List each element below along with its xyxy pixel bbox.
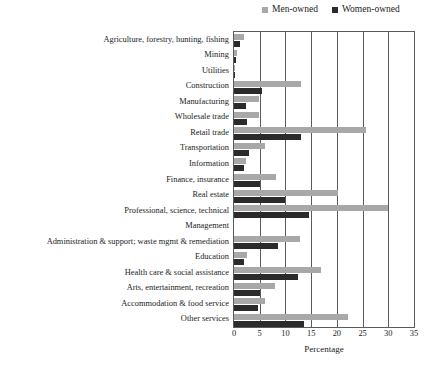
- bar-men-owned: [234, 283, 275, 289]
- bar-men-owned: [234, 267, 321, 273]
- bar-row: [234, 142, 414, 158]
- category-label: Arts, entertainment, recreation: [127, 284, 229, 292]
- category-label: Mining: [204, 51, 229, 59]
- bar-row: [234, 80, 414, 96]
- bar-men-owned: [234, 252, 247, 258]
- legend-entry-women-owned: Women-owned: [332, 5, 400, 15]
- bar-women-owned: [234, 41, 240, 47]
- category-label: Wholesale trade: [175, 113, 229, 121]
- bar-row: [234, 297, 414, 313]
- chart-container: Men-owned Women-owned Agriculture, fores…: [0, 0, 436, 370]
- plot-area: [233, 31, 415, 328]
- bar-row: [234, 219, 414, 235]
- x-tick-label-15: 15: [307, 330, 315, 338]
- bar-men-owned: [234, 81, 301, 87]
- category-axis-labels: Agriculture, forestry, hunting, fishingM…: [0, 31, 229, 328]
- bar-women-owned: [234, 259, 244, 265]
- bar-row: [234, 235, 414, 251]
- category-label: Health care & social assistance: [125, 269, 229, 277]
- category-label: Manufacturing: [179, 98, 229, 106]
- category-label: Administration & support; waste mgmt & r…: [47, 238, 229, 246]
- legend-label-women-owned: Women-owned: [342, 5, 400, 15]
- bar-men-owned: [234, 236, 300, 242]
- bar-men-owned: [234, 127, 366, 133]
- category-label: Retail trade: [190, 129, 229, 137]
- bar-women-owned: [234, 274, 298, 280]
- bar-men-owned: [234, 205, 388, 211]
- bar-women-owned: [234, 197, 285, 203]
- x-tick-label-35: 35: [410, 330, 418, 338]
- bar-women-owned: [234, 150, 249, 156]
- bar-men-owned: [234, 96, 259, 102]
- bar-row: [234, 204, 414, 220]
- x-axis-title: Percentage: [233, 345, 415, 354]
- bar-women-owned: [234, 212, 309, 218]
- bar-men-owned: [234, 298, 265, 304]
- bar-row: [234, 250, 414, 266]
- bar-row: [234, 312, 414, 328]
- x-tick-label-0: 0: [232, 330, 236, 338]
- bar-women-owned: [234, 321, 304, 327]
- bar-row: [234, 49, 414, 65]
- bar-rows: [234, 32, 414, 327]
- bar-men-owned: [234, 65, 235, 71]
- category-label: Agriculture, forestry, hunting, fishing: [103, 36, 229, 44]
- category-label: Accommodation & food service: [121, 300, 229, 308]
- bar-row: [234, 126, 414, 142]
- bar-women-owned: [234, 119, 247, 125]
- bar-row: [234, 173, 414, 189]
- category-label: Other services: [181, 315, 229, 323]
- bar-women-owned: [234, 243, 278, 249]
- legend-label-men-owned: Men-owned: [272, 5, 318, 15]
- bar-row: [234, 157, 414, 173]
- bar-row: [234, 111, 414, 127]
- x-tick-label-10: 10: [281, 330, 289, 338]
- bar-men-owned: [234, 174, 276, 180]
- bar-women-owned: [234, 305, 258, 311]
- bar-men-owned: [234, 143, 265, 149]
- category-label: Management: [185, 222, 229, 230]
- bar-men-owned: [234, 112, 259, 118]
- bar-men-owned: [234, 190, 338, 196]
- category-label: Information: [189, 160, 229, 168]
- bar-row: [234, 95, 414, 111]
- bar-men-owned: [234, 314, 348, 320]
- chart-legend: Men-owned Women-owned: [262, 5, 400, 15]
- bar-women-owned: [234, 290, 260, 296]
- bar-row: [234, 266, 414, 282]
- x-tick-label-30: 30: [384, 330, 392, 338]
- bar-row: [234, 33, 414, 49]
- bar-row: [234, 281, 414, 297]
- legend-entry-men-owned: Men-owned: [262, 5, 318, 15]
- category-label: Construction: [186, 82, 229, 90]
- bar-women-owned: [234, 103, 246, 109]
- legend-swatch-men-owned: [262, 7, 268, 13]
- bar-men-owned: [234, 158, 246, 164]
- bar-men-owned: [234, 50, 237, 56]
- x-tick-label-20: 20: [333, 330, 341, 338]
- category-label: Professional, science, technical: [124, 207, 229, 215]
- category-label: Real estate: [192, 191, 229, 199]
- bar-women-owned: [234, 88, 262, 94]
- bar-women-owned: [234, 72, 235, 78]
- x-axis-ticks: 05101520253035: [233, 330, 415, 342]
- category-label: Utilities: [202, 67, 229, 75]
- bar-women-owned: [234, 134, 301, 140]
- x-tick-label-25: 25: [358, 330, 366, 338]
- category-label: Finance, insurance: [166, 176, 229, 184]
- x-tick-label-5: 5: [258, 330, 262, 338]
- bar-row: [234, 64, 414, 80]
- legend-swatch-women-owned: [332, 7, 338, 13]
- category-label: Transportation: [180, 144, 229, 152]
- bar-women-owned: [234, 57, 236, 63]
- bar-women-owned: [234, 181, 260, 187]
- bar-men-owned: [234, 34, 244, 40]
- bar-women-owned: [234, 165, 244, 171]
- bar-row: [234, 188, 414, 204]
- category-label: Education: [195, 253, 229, 261]
